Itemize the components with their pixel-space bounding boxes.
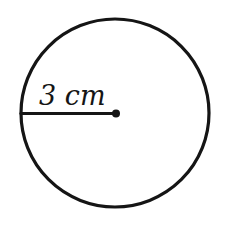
- center-point: [112, 110, 120, 118]
- radius-label: 3 cm: [39, 80, 106, 111]
- circle-diagram: 3 cm: [0, 0, 226, 226]
- diagram-canvas: 3 cm: [0, 0, 226, 226]
